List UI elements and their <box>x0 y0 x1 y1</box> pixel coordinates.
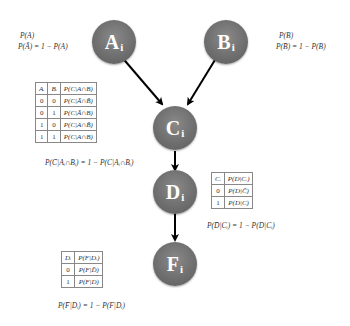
node-b-subscript: i <box>232 41 235 53</box>
table-cell: P(C|A∩B) <box>60 131 96 143</box>
header-cell: P(D|Cᵢ) <box>224 173 253 185</box>
header-cell: Bᵢ <box>48 83 60 95</box>
table-cell: 0 <box>212 185 225 197</box>
header-cell: P(C|A∩B) <box>60 83 96 95</box>
complement-d: P(D̄|Cᵢ) = 1 − P(D|Cᵢ) <box>207 220 275 231</box>
table-cell: P(C|Ā∩B) <box>60 107 96 119</box>
table-row: 1 P(F|D) <box>62 276 103 288</box>
bayesian-network-diagram: Ai Bi Ci Di Fi P(A) P(Ā) = 1 − P(A) P(B)… <box>0 0 350 326</box>
edge-a-to-c <box>120 55 162 104</box>
node-f-label: F <box>167 253 179 276</box>
node-a-label: A <box>105 31 119 54</box>
node-b-label: B <box>217 31 230 54</box>
prior-a-line2: P(Ā) = 1 − P(A) <box>18 41 68 52</box>
table-row: 0 1 P(C|Ā∩B) <box>36 107 97 119</box>
table-header: Cᵢ P(D|Cᵢ) <box>212 173 253 185</box>
table-cell: 0 <box>36 95 48 107</box>
table-cell: 0 <box>48 95 60 107</box>
cpt-table-c: Aᵢ Bᵢ P(C|A∩B) 0 0 P(C|Ā∩B̄) 0 1 P(C|Ā∩B… <box>35 82 97 143</box>
edge-b-to-c <box>188 55 218 104</box>
cpt-table-f: Dᵢ P(F|Dᵢ) 0 P(F|D̄) 1 P(F|D) <box>61 251 103 288</box>
table-cell: 1 <box>36 119 48 131</box>
table-cell: 0 <box>62 264 75 276</box>
complement-c: P(C̄|Aᵢ∩Bᵢ) = 1 − P(C|Aᵢ∩Bᵢ) <box>45 157 134 168</box>
node-d-label: D <box>166 181 180 204</box>
header-cell: Dᵢ <box>62 252 75 264</box>
header-cell: P(F|Dᵢ) <box>75 252 103 264</box>
prior-b-line2: P(B̄) = 1 − P(B) <box>276 41 326 52</box>
table-cell: P(D|C̄) <box>224 185 253 197</box>
table-cell: 1 <box>36 131 48 143</box>
table-cell: P(C|A∩B̄) <box>60 119 96 131</box>
table-cell: 1 <box>212 197 225 209</box>
table-row: 1 P(D|C) <box>212 197 253 209</box>
node-c: Ci <box>153 106 197 150</box>
table-cell: P(C|Ā∩B̄) <box>60 95 96 107</box>
table-cell: 1 <box>48 107 60 119</box>
table-cell: 1 <box>48 131 60 143</box>
node-d-subscript: i <box>181 191 184 203</box>
table-cell: 1 <box>62 276 75 288</box>
header-cell: Cᵢ <box>212 173 225 185</box>
header-cell: Aᵢ <box>36 83 48 95</box>
table-cell: 0 <box>36 107 48 119</box>
node-b: Bi <box>204 20 248 64</box>
table-cell: P(D|C) <box>224 197 253 209</box>
table-header: Dᵢ P(F|Dᵢ) <box>62 252 103 264</box>
node-f-subscript: i <box>180 263 183 275</box>
table-row: 0 P(F|D̄) <box>62 264 103 276</box>
node-c-label: C <box>166 117 180 140</box>
table-cell: P(F|D̄) <box>75 264 103 276</box>
table-cell: 0 <box>48 119 60 131</box>
table-row: 1 0 P(C|A∩B̄) <box>36 119 97 131</box>
complement-f: P(F̄|Dᵢ) = 1 − P(F|Dᵢ) <box>58 300 125 311</box>
table-cell: P(F|D) <box>75 276 103 288</box>
node-c-subscript: i <box>181 127 184 139</box>
node-a: Ai <box>92 20 136 64</box>
table-header: Aᵢ Bᵢ P(C|A∩B) <box>36 83 97 95</box>
node-f: Fi <box>153 242 197 286</box>
prior-a: P(A) P(Ā) = 1 − P(A) <box>18 30 68 52</box>
prior-b: P(B) P(B̄) = 1 − P(B) <box>276 30 326 52</box>
table-row: 0 P(D|C̄) <box>212 185 253 197</box>
table-row: 0 0 P(C|Ā∩B̄) <box>36 95 97 107</box>
prior-a-line1: P(A) <box>18 30 68 41</box>
node-d: Di <box>153 170 197 214</box>
prior-b-line1: P(B) <box>276 30 326 41</box>
node-a-subscript: i <box>120 41 123 53</box>
cpt-table-d: Cᵢ P(D|Cᵢ) 0 P(D|C̄) 1 P(D|C) <box>211 172 253 209</box>
table-row: 1 1 P(C|A∩B) <box>36 131 97 143</box>
